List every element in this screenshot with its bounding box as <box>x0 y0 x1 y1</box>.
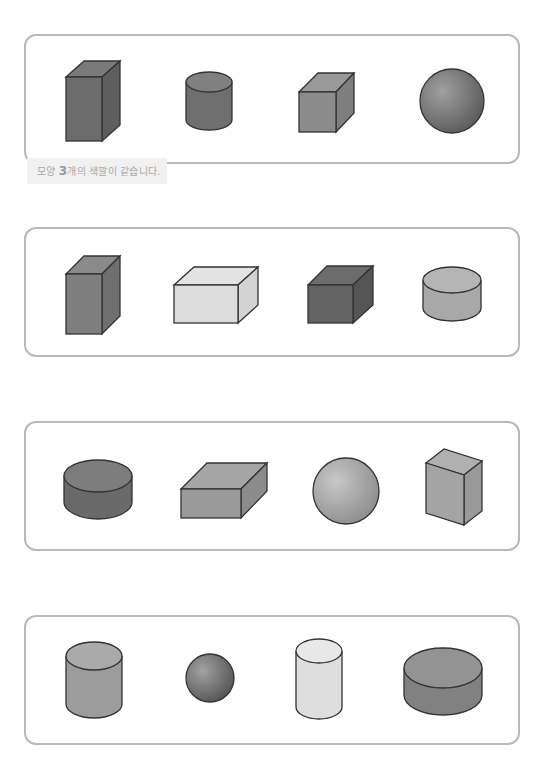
cylinder-icon <box>184 70 234 132</box>
tall-box-icon <box>64 59 124 143</box>
shape-panel-4 <box>24 615 520 745</box>
cube-icon <box>307 265 375 325</box>
wide-box-icon <box>172 265 260 325</box>
shape-panel-3 <box>24 421 520 551</box>
small-sphere-icon <box>184 652 236 704</box>
short-cylinder-icon <box>62 458 134 522</box>
shape-panel-2 <box>24 227 520 357</box>
sphere-icon <box>418 67 486 135</box>
cylinder-icon <box>64 640 124 720</box>
caption-suffix: 개의 색깔이 같습니다. <box>67 166 160 177</box>
short-cylinder-icon <box>421 265 483 323</box>
tall-cylinder-icon <box>294 637 344 721</box>
tall-box-icon <box>64 254 124 336</box>
caption-prefix: 모양 <box>37 166 59 177</box>
tall-box-icon <box>424 447 484 527</box>
wide-cylinder-icon <box>402 645 484 717</box>
sphere-icon <box>311 456 381 526</box>
cube-icon <box>298 72 356 134</box>
flat-box-icon <box>179 461 269 521</box>
shape-panel-1 <box>24 34 520 164</box>
caption-tag: 모양 3개의 색깔이 같습니다. <box>27 158 167 184</box>
